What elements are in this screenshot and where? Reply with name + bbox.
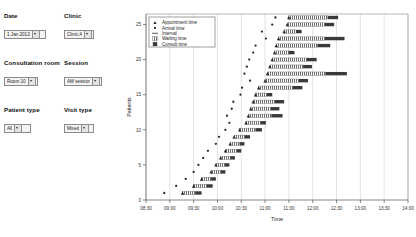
svg-text:13:30: 13:30 xyxy=(378,206,390,211)
legend-hatched-box-icon xyxy=(153,37,157,41)
svg-text:09:30: 09:30 xyxy=(188,206,200,211)
filter-grid: Date 1 Jan 2013 Clinic Clinic A Consulta… xyxy=(4,12,118,153)
dropdown-arrow-icon xyxy=(32,30,40,39)
waiting-bar xyxy=(248,114,271,117)
patient-row xyxy=(249,79,308,82)
arrival-marker xyxy=(249,80,251,82)
patient-row xyxy=(231,107,280,110)
patient-row xyxy=(218,135,250,138)
filter-visit-type-label: Visit type xyxy=(64,106,124,113)
consult-bar xyxy=(275,100,285,103)
legend-label: Appointment time xyxy=(162,20,198,25)
arrival-marker xyxy=(226,115,228,117)
arrival-marker xyxy=(248,58,250,60)
dropdown-arrow-icon xyxy=(14,124,22,133)
patient-row xyxy=(265,37,345,40)
svg-text:Time: Time xyxy=(271,216,283,222)
arrival-marker xyxy=(231,108,233,110)
consult-bar xyxy=(306,58,316,61)
patient-row xyxy=(224,128,262,131)
chart-legend: Appointment timeArrival timeIntervalWait… xyxy=(149,17,215,47)
arrival-marker xyxy=(271,23,273,25)
waiting-bar xyxy=(275,51,289,54)
consult-bar xyxy=(195,191,201,194)
svg-text:11:00: 11:00 xyxy=(260,206,272,211)
patient-row xyxy=(252,51,294,54)
consult-bar xyxy=(303,65,312,68)
legend-label: Interval xyxy=(162,31,177,36)
consult-bar xyxy=(230,156,235,159)
waiting-bar xyxy=(194,184,207,187)
patient-type-select[interactable]: All xyxy=(4,124,31,133)
consultation-room-select[interactable]: Room 10 xyxy=(4,77,38,86)
waiting-bar xyxy=(284,30,296,33)
patient-row xyxy=(254,44,330,47)
filter-patient-type-label: Patient type xyxy=(4,106,64,113)
svg-text:12:00: 12:00 xyxy=(307,206,319,211)
filter-consultation-room: Consultation room Room 10 xyxy=(4,59,64,106)
visit-type-select[interactable]: Mixed xyxy=(64,124,94,133)
legend-label: Consult time xyxy=(162,42,188,47)
consult-bar xyxy=(325,72,346,75)
dropdown-arrow-icon xyxy=(81,124,89,133)
consult-bar xyxy=(325,23,335,26)
patient-row xyxy=(197,163,229,166)
consultation-room-select-value: Room 10 xyxy=(7,79,26,84)
session-select-value: AM session xyxy=(67,79,90,84)
arrival-marker xyxy=(215,143,217,145)
consult-bar xyxy=(325,37,345,40)
svg-text:10:30: 10:30 xyxy=(236,206,248,211)
consult-bar xyxy=(289,51,295,54)
arrival-marker xyxy=(232,101,234,103)
svg-text:11:30: 11:30 xyxy=(283,206,295,211)
arrival-marker xyxy=(175,185,177,187)
legend-dot-icon xyxy=(154,27,156,29)
svg-text:25: 25 xyxy=(136,22,142,27)
consult-bar xyxy=(221,170,226,173)
svg-text:10: 10 xyxy=(136,128,142,133)
svg-text:14:00: 14:00 xyxy=(402,206,414,211)
filter-consultation-room-label: Consultation room xyxy=(4,59,64,66)
filter-date: Date 1 Jan 2013 xyxy=(4,12,64,59)
session-select[interactable]: AM session xyxy=(64,77,102,86)
svg-text:09:00: 09:00 xyxy=(164,206,176,211)
patient-row xyxy=(274,16,338,19)
waiting-bar xyxy=(240,128,256,131)
filter-clinic: Clinic Clinic A xyxy=(64,12,124,59)
waiting-bar xyxy=(225,149,236,152)
svg-text:10:00: 10:00 xyxy=(212,206,224,211)
arrival-marker xyxy=(207,150,209,152)
arrival-marker xyxy=(218,136,220,138)
consult-bar xyxy=(296,30,302,33)
clinic-select-value: Clinic A xyxy=(67,32,82,37)
patient-row xyxy=(202,156,235,159)
patient-row xyxy=(185,177,216,180)
svg-text:12:30: 12:30 xyxy=(331,206,343,211)
arrival-marker xyxy=(228,122,230,124)
chart-canvas: 08:3009:0009:3010:0010:3011:0011:3012:00… xyxy=(122,0,416,237)
patient-row xyxy=(228,121,266,124)
filter-visit-type: Visit type Mixed xyxy=(64,106,124,153)
arrival-marker xyxy=(163,192,165,194)
date-select[interactable]: 1 Jan 2013 xyxy=(4,30,46,39)
patient-row xyxy=(243,72,347,75)
svg-text:20: 20 xyxy=(136,57,142,62)
legend-label: Waiting time xyxy=(162,36,187,41)
arrival-marker xyxy=(192,171,194,173)
consult-bar xyxy=(298,79,308,82)
patient-row xyxy=(232,100,284,103)
arrival-marker xyxy=(224,129,226,131)
consult-bar xyxy=(211,177,216,180)
arrival-marker xyxy=(254,44,256,46)
consult-bar xyxy=(271,107,280,110)
clinic-select[interactable]: Clinic A xyxy=(64,30,94,39)
patient-row xyxy=(207,149,241,152)
patient-row xyxy=(248,58,317,61)
patient-row xyxy=(175,184,213,187)
consult-bar xyxy=(256,128,262,131)
waiting-bar xyxy=(253,100,274,103)
consult-bar xyxy=(206,184,212,187)
filter-patient-type: Patient type All xyxy=(4,106,64,153)
filter-date-label: Date xyxy=(4,12,64,19)
svg-text:0: 0 xyxy=(138,198,141,203)
